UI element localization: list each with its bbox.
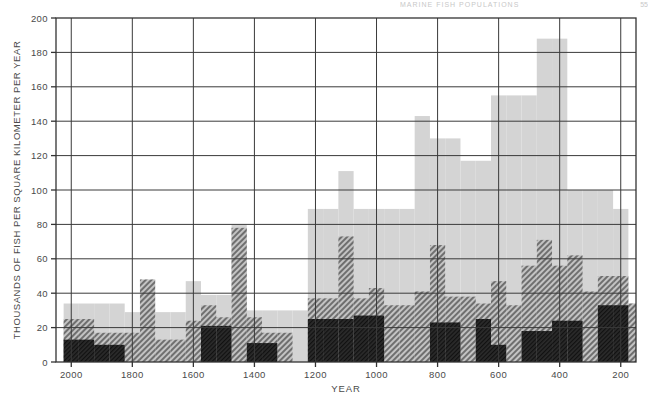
bar: [583, 291, 598, 362]
bar: [170, 340, 185, 362]
y-tick-label: 200: [31, 13, 48, 24]
bar: [338, 319, 353, 362]
bar: [79, 340, 94, 362]
x-tick-label: 1200: [304, 369, 327, 380]
page-number: 55: [632, 0, 648, 7]
bar: [293, 310, 308, 362]
y-tick-label: 140: [31, 116, 48, 127]
bar: [415, 291, 430, 362]
bar: [323, 319, 338, 362]
bar: [262, 343, 277, 362]
x-tick-label: 800: [429, 369, 446, 380]
y-tick-label: 180: [31, 47, 48, 58]
bar: [537, 331, 552, 362]
bar: [232, 228, 247, 362]
bar: [109, 345, 124, 362]
y-tick-label: 100: [31, 185, 48, 196]
bar: [598, 305, 613, 362]
bar: [140, 279, 155, 362]
x-tick-label: 1000: [365, 369, 388, 380]
x-tick-label: 2000: [60, 369, 83, 380]
y-tick-label: 20: [37, 322, 48, 333]
bar: [155, 340, 170, 362]
bar: [94, 345, 109, 362]
x-tick-label: 1800: [121, 369, 144, 380]
bar: [567, 321, 582, 362]
y-axis-title: THOUSANDS OF FISH PER SQUARE KILOMETER P…: [11, 41, 22, 340]
y-tick-label: 80: [37, 219, 48, 230]
bar: [354, 316, 369, 362]
chart-figure: MARINE FISH POPULATIONS 55 0204060801001…: [0, 0, 652, 402]
bar: [506, 305, 521, 362]
y-axis-ticks: 020406080100120140160180200: [31, 13, 56, 368]
y-tick-label: 120: [31, 150, 48, 161]
x-tick-label: 600: [490, 369, 507, 380]
bar: [476, 319, 491, 362]
bar: [399, 305, 414, 362]
bar: [384, 305, 399, 362]
bar: [201, 326, 216, 362]
x-tick-label: 1600: [182, 369, 205, 380]
bar: [445, 322, 460, 362]
y-tick-label: 60: [37, 253, 48, 264]
x-axis-ticks: 200018001600140012001000800600400200: [60, 362, 629, 380]
page-header-sliver: MARINE FISH POPULATIONS: [400, 0, 650, 7]
x-tick-label: 200: [612, 369, 629, 380]
x-axis-title: YEAR: [331, 383, 360, 394]
x-tick-label: 1400: [243, 369, 266, 380]
x-tick-label: 400: [551, 369, 568, 380]
bar: [216, 326, 231, 362]
bar: [277, 333, 292, 362]
y-tick-label: 0: [42, 357, 48, 368]
bar: [460, 297, 475, 362]
y-tick-label: 160: [31, 81, 48, 92]
bar-chart-svg: 020406080100120140160180200 200018001600…: [0, 0, 652, 402]
bar: [522, 331, 537, 362]
y-tick-label: 40: [37, 288, 48, 299]
